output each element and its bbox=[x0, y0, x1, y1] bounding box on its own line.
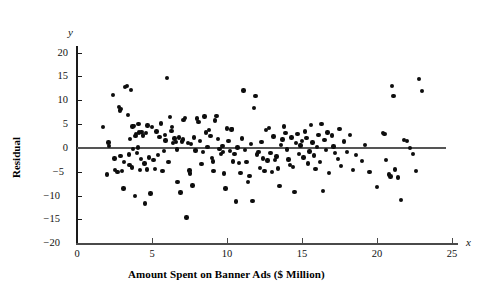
data-point bbox=[390, 84, 394, 88]
data-point bbox=[244, 160, 248, 164]
data-point bbox=[163, 138, 167, 142]
data-point bbox=[156, 153, 160, 157]
data-point bbox=[312, 153, 316, 157]
data-point bbox=[382, 132, 386, 136]
data-point bbox=[111, 93, 115, 97]
data-point bbox=[351, 168, 355, 172]
data-point bbox=[277, 184, 281, 188]
data-point bbox=[202, 114, 206, 118]
data-point bbox=[271, 134, 275, 138]
data-point bbox=[292, 190, 296, 194]
data-point bbox=[256, 150, 260, 154]
data-point bbox=[375, 185, 379, 189]
data-point bbox=[319, 122, 323, 126]
data-point bbox=[238, 171, 242, 175]
data-point bbox=[237, 161, 241, 165]
data-point bbox=[118, 154, 122, 158]
data-point bbox=[384, 158, 388, 162]
data-point bbox=[280, 137, 284, 141]
data-point bbox=[330, 133, 334, 137]
data-point bbox=[163, 133, 167, 137]
data-point bbox=[333, 151, 337, 155]
data-point bbox=[336, 157, 340, 161]
data-point bbox=[174, 140, 178, 144]
data-point bbox=[154, 129, 158, 133]
data-point bbox=[120, 169, 124, 173]
data-point bbox=[247, 174, 251, 178]
data-point bbox=[143, 201, 147, 205]
data-point bbox=[226, 139, 230, 143]
data-point bbox=[262, 169, 266, 173]
data-point bbox=[133, 194, 137, 198]
data-point bbox=[112, 156, 116, 160]
data-point bbox=[220, 144, 224, 148]
data-point bbox=[138, 168, 142, 172]
data-point bbox=[240, 136, 244, 140]
data-point bbox=[211, 169, 215, 173]
data-point bbox=[199, 162, 203, 166]
data-point bbox=[298, 143, 302, 147]
data-point bbox=[316, 133, 320, 137]
data-point bbox=[274, 154, 278, 158]
data-point bbox=[196, 120, 200, 124]
data-point bbox=[270, 170, 274, 174]
data-point bbox=[144, 131, 148, 135]
data-point bbox=[249, 142, 253, 146]
data-point bbox=[145, 167, 149, 171]
data-point bbox=[306, 161, 310, 165]
data-point bbox=[136, 145, 140, 149]
data-point bbox=[142, 161, 146, 165]
data-point bbox=[283, 131, 287, 135]
data-point bbox=[157, 135, 161, 139]
data-point bbox=[129, 88, 133, 92]
data-point bbox=[170, 125, 174, 129]
data-point bbox=[159, 121, 163, 125]
data-point bbox=[315, 145, 319, 149]
data-point bbox=[282, 124, 286, 128]
data-point bbox=[151, 158, 155, 162]
data-point bbox=[160, 169, 164, 173]
data-point bbox=[190, 183, 194, 187]
data-point bbox=[322, 138, 326, 142]
data-point bbox=[150, 125, 154, 129]
data-point bbox=[268, 151, 272, 155]
data-point bbox=[354, 153, 358, 157]
data-point bbox=[289, 135, 293, 139]
data-point bbox=[301, 155, 305, 159]
data-point bbox=[232, 152, 236, 156]
data-point bbox=[241, 88, 245, 92]
data-point bbox=[136, 122, 140, 126]
data-point bbox=[405, 139, 409, 143]
data-point bbox=[119, 107, 123, 111]
data-point bbox=[393, 167, 397, 171]
data-point bbox=[420, 89, 424, 93]
data-point bbox=[216, 137, 220, 141]
data-point bbox=[327, 171, 331, 175]
data-point bbox=[223, 186, 227, 190]
data-point bbox=[101, 125, 105, 129]
residual-scatter-plot: y x 20 15 10 5 0 −5 −10 −15 −20 0 5 10 1… bbox=[0, 0, 495, 295]
data-point bbox=[276, 166, 280, 170]
data-point bbox=[246, 180, 250, 184]
data-point bbox=[139, 157, 143, 161]
data-point bbox=[181, 137, 185, 141]
data-point bbox=[148, 191, 152, 195]
data-point bbox=[286, 157, 290, 161]
data-point-layer bbox=[0, 0, 495, 295]
data-point bbox=[318, 160, 322, 164]
data-point bbox=[169, 129, 173, 133]
data-point bbox=[253, 94, 257, 98]
data-point bbox=[291, 165, 295, 169]
data-point bbox=[250, 199, 254, 203]
data-point bbox=[107, 144, 111, 148]
data-point bbox=[331, 144, 335, 148]
data-point bbox=[175, 180, 179, 184]
data-point bbox=[399, 198, 403, 202]
data-point bbox=[168, 115, 172, 119]
data-point bbox=[126, 113, 130, 117]
data-point bbox=[360, 159, 364, 163]
data-point bbox=[207, 128, 211, 132]
data-point bbox=[130, 165, 134, 169]
data-point bbox=[408, 146, 412, 150]
data-point bbox=[178, 190, 182, 194]
